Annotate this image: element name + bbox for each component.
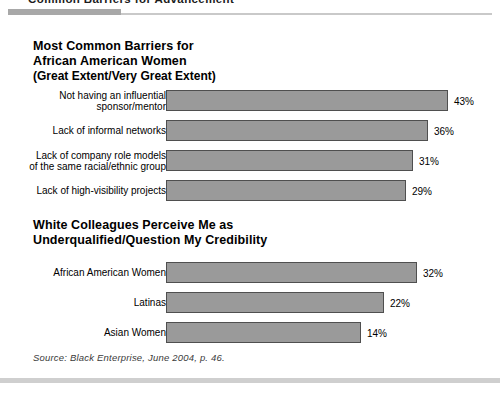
bar-track: 43%	[166, 90, 448, 111]
bar-track: 29%	[166, 180, 406, 201]
bar-category-label: Lack of informal networks	[53, 125, 166, 137]
running-head-title: Common Barriers for Advancement	[28, 0, 234, 5]
bar-fill	[166, 262, 417, 283]
bar-fill	[166, 90, 448, 111]
chart-one-heading: Most Common Barriers for African America…	[33, 39, 216, 84]
chart-two-title-line2: Underqualified/Question My Credibility	[33, 233, 267, 248]
chart-two-heading: White Colleagues Perceive Me as Underqua…	[33, 218, 267, 248]
bar-value-label: 22%	[384, 297, 410, 308]
bar-category-label: Lack of high-visibility projects	[37, 185, 167, 197]
figure-panel: Most Common Barriers for African America…	[8, 22, 492, 374]
header-rule-line	[121, 13, 492, 15]
bar-fill	[166, 322, 361, 343]
chart-one-subtitle: (Great Extent/Very Great Extent)	[33, 69, 216, 84]
bar-row: Lack of high-visibility projects 29%	[8, 180, 492, 201]
bar-value-label: 32%	[417, 267, 443, 278]
bar-value-label: 14%	[361, 327, 387, 338]
bar-value-label: 36%	[428, 125, 454, 136]
bar-category-label: Not having an influential sponsor/mentor	[59, 89, 166, 112]
bar-value-label: 43%	[448, 95, 474, 106]
bar-fill	[166, 150, 413, 171]
bar-track: 22%	[166, 292, 384, 313]
chart-one-title-line2: African American Women	[33, 54, 216, 69]
bar-value-label: 29%	[406, 185, 432, 196]
chart-one-title-line1: Most Common Barriers for	[33, 39, 216, 54]
bar-track: 14%	[166, 322, 361, 343]
bar-value-label: 31%	[413, 155, 439, 166]
bar-track: 31%	[166, 150, 413, 171]
bar-category-label: Latinas	[134, 297, 166, 309]
chart-two-plot: African American Women 32% Latinas 22% A…	[8, 262, 492, 352]
header-rule-block	[8, 9, 121, 15]
bar-row: Latinas 22%	[8, 292, 492, 313]
bar-row: Lack of informal networks 36%	[8, 120, 492, 141]
bar-track: 36%	[166, 120, 428, 141]
bar-row: Not having an influential sponsor/mentor…	[8, 90, 492, 111]
source-note: Source: Black Enterprise, June 2004, p. …	[33, 352, 225, 363]
chart-two-title-line1: White Colleagues Perceive Me as	[33, 218, 267, 233]
bar-row: Asian Women 14%	[8, 322, 492, 343]
bar-track: 32%	[166, 262, 417, 283]
running-head: Common Barriers for Advancement	[0, 0, 500, 8]
bar-category-label: Asian Women	[104, 327, 166, 339]
bar-fill	[166, 292, 384, 313]
bar-category-label: African American Women	[53, 267, 166, 279]
footer-rule	[0, 378, 500, 383]
chart-one-plot: Not having an influential sponsor/mentor…	[8, 90, 492, 210]
bar-category-label: Lack of company role models of the same …	[29, 149, 166, 172]
bar-row: Lack of company role models of the same …	[8, 150, 492, 171]
bar-fill	[166, 120, 428, 141]
bar-row: African American Women 32%	[8, 262, 492, 283]
bar-fill	[166, 180, 406, 201]
header-rule	[0, 9, 500, 17]
